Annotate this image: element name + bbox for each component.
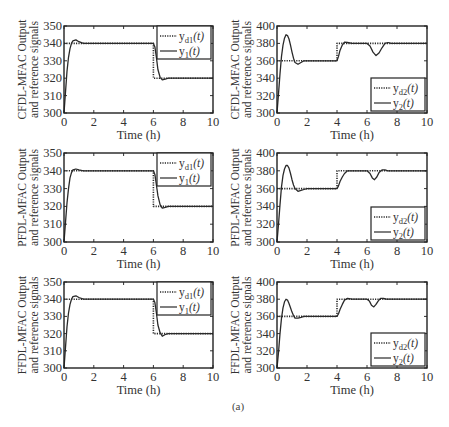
x-tick-label: 4 [334,244,341,258]
y-tick-label: 380 [256,36,275,50]
y-tick-label: 330 [43,54,62,68]
x-tick-label: 10 [207,244,220,258]
x-axis-label: Time (h) [117,257,161,271]
x-axis-label: Time (h) [330,257,374,271]
legend: yd2(t)y2(t) [371,78,425,112]
x-tick-label: 4 [120,370,127,384]
y-tick-label: 320 [43,71,62,85]
y-tick-label: 340 [43,164,62,178]
y-tick-label: 300 [43,106,62,120]
y-tick-label: 400 [256,275,275,289]
y-tick-label: 300 [256,235,275,249]
chart-panel-pfdl-2: 0246810300320340360380400yd2(t)y2(t)Time… [229,146,433,271]
x-axis-label: Time (h) [117,383,161,397]
x-tick-label: 2 [91,115,97,129]
x-tick-label: 6 [150,370,156,384]
y-tick-label: 360 [256,182,275,196]
y-axis-label: and reference signals [241,148,254,246]
x-tick-label: 4 [334,115,341,129]
x-tick-label: 4 [120,244,127,258]
chart-panel-pfdl-1: 0246810300310320330340350yd1(t)y1(t)Time… [16,146,219,271]
y-tick-label: 400 [256,19,275,33]
x-tick-label: 2 [304,244,310,258]
x-tick-label: 2 [304,370,310,384]
x-tick-label: 10 [421,115,434,129]
y-axis-label: and reference signals [28,20,41,118]
x-tick-label: 8 [394,115,400,129]
y-tick-label: 360 [256,309,275,323]
x-axis-label: Time (h) [117,128,161,142]
y-tick-label: 310 [43,217,62,231]
chart-panel-ffdl-1: 0246810300310320330340350yd1(t)y1(t)Time… [16,275,219,397]
x-tick-label: 4 [334,370,341,384]
y-tick-label: 350 [43,146,62,160]
x-axis-label: Time (h) [330,128,374,142]
x-tick-label: 2 [91,244,97,258]
y-tick-label: 350 [43,19,62,33]
x-tick-label: 8 [394,370,400,384]
x-tick-label: 10 [207,370,220,384]
series-line-reference [277,43,427,60]
series-line-reference [277,299,427,316]
chart-panel-cfdl-1: 0246810300310320330340350yd1(t)y1(t)Time… [16,19,219,142]
y-tick-label: 320 [256,344,275,358]
x-axis-label: Time (h) [330,383,374,397]
y-tick-label: 300 [256,106,275,120]
y-tick-label: 360 [256,54,275,68]
x-tick-label: 6 [364,244,370,258]
x-tick-label: 2 [91,370,97,384]
y-tick-label: 300 [43,361,62,375]
x-tick-label: 6 [364,115,370,129]
y-axis-label: and reference signals [241,20,254,118]
x-tick-label: 8 [394,244,400,258]
x-tick-label: 10 [421,244,434,258]
y-tick-label: 320 [43,199,62,213]
y-tick-label: 340 [256,327,275,341]
x-tick-label: 6 [150,244,156,258]
y-axis-label: and reference signals [241,276,254,374]
y-axis-label: and reference signals [28,276,41,374]
legend: yd1(t)y1(t) [157,153,211,187]
legend: yd2(t)y2(t) [371,207,425,241]
y-tick-label: 330 [43,309,62,323]
y-tick-label: 320 [256,89,275,103]
y-tick-label: 340 [256,199,275,213]
legend: yd1(t)y1(t) [157,26,211,60]
y-axis-label: and reference signals [28,148,41,246]
y-tick-label: 350 [43,275,62,289]
y-tick-label: 300 [256,361,275,375]
x-tick-label: 8 [180,244,186,258]
y-tick-label: 310 [43,344,62,358]
y-tick-label: 400 [256,146,275,160]
x-tick-label: 8 [180,370,186,384]
series-line-reference [277,171,427,189]
y-tick-label: 380 [256,292,275,306]
figure: (a) 0246810300310320330340350yd1(t)y1(t)… [0,0,449,427]
y-tick-label: 320 [256,217,275,231]
x-tick-label: 4 [120,115,127,129]
chart-panel-ffdl-2: 0246810300320340360380400yd2(t)y2(t)Time… [229,275,433,397]
legend: yd1(t)y1(t) [157,282,211,316]
x-tick-label: 8 [180,115,186,129]
x-tick-label: 10 [207,115,220,129]
y-tick-label: 340 [43,292,62,306]
chart-panel-cfdl-2: 0246810300320340360380400yd2(t)y2(t)Time… [229,19,433,142]
x-tick-label: 2 [304,115,310,129]
y-tick-label: 340 [43,36,62,50]
x-tick-label: 10 [421,370,434,384]
figure-caption: (a) [232,400,245,413]
y-tick-label: 300 [43,235,62,249]
x-tick-label: 6 [364,370,370,384]
y-tick-label: 380 [256,164,275,178]
legend: yd2(t)y2(t) [371,333,425,367]
y-tick-label: 340 [256,71,275,85]
y-tick-label: 310 [43,89,62,103]
x-tick-label: 6 [150,115,156,129]
y-tick-label: 330 [43,182,62,196]
y-tick-label: 320 [43,327,62,341]
